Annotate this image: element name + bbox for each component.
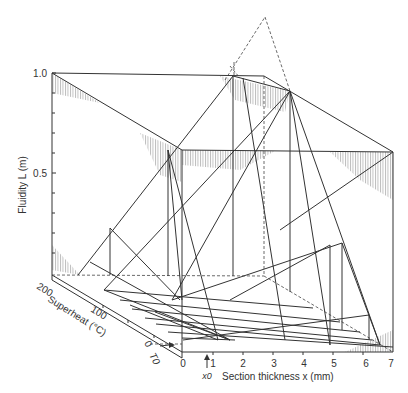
x-axis-label: Section thickness x (mm) <box>222 371 334 382</box>
depth-tick-0: 0 <box>142 339 155 349</box>
x-tick-6: 6 <box>363 358 369 369</box>
y-tick-1.0: 1.0 <box>33 68 47 79</box>
x-tick-1: 1 <box>210 358 216 369</box>
x0-marker: x0 <box>201 371 212 381</box>
x-tick-5: 5 <box>331 358 337 369</box>
fluidity-3d-diagram: 1.0 0.5 Fluidity L (m) <box>0 0 408 393</box>
base-grid-lines <box>104 290 393 347</box>
x0-arrow-icon <box>204 354 210 368</box>
y-axis <box>52 73 56 275</box>
x-tick-0: 0 <box>180 358 186 369</box>
depth-origin-T0: T0 <box>147 351 162 367</box>
x-tick-7: 7 <box>388 358 394 369</box>
x-tick-4: 4 <box>301 358 307 369</box>
y-tick-0.5: 0.5 <box>33 168 47 179</box>
x-tick-2: 2 <box>240 358 246 369</box>
x-tick-3: 3 <box>271 358 277 369</box>
y-axis-label: Fluidity L (m) <box>17 156 28 213</box>
